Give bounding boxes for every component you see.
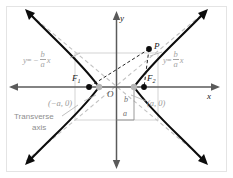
asymptote-left-denominator: a	[40, 60, 46, 69]
asymptote-right-equals: =	[167, 55, 172, 65]
asymptote-right-denominator: a	[173, 60, 179, 69]
focus-left-subscript: 1	[78, 78, 81, 84]
y-axis-label: y	[120, 14, 124, 23]
asymptote-right-equation: y=bax	[163, 50, 184, 68]
vertex-right-label: (a, 0)	[147, 99, 165, 108]
focus-left-dot	[86, 84, 92, 90]
point-p-dot	[146, 46, 152, 52]
origin-label: O	[107, 90, 114, 99]
focus-right-dot	[141, 84, 147, 90]
asymptote-left-variable: x	[47, 55, 51, 65]
asymptote-left-equation: y= −bax	[23, 50, 51, 68]
focus-right-label: F2	[147, 74, 156, 84]
asymptote-left-equals: = −	[27, 55, 39, 65]
semi-major-label: a	[123, 110, 127, 118]
asymptote-left-fraction: ba	[40, 50, 46, 68]
vertex-left-label: (−a, 0)	[48, 99, 72, 108]
vertex-right-dot	[131, 84, 137, 90]
focus-left-label: F1	[72, 74, 81, 84]
asymptote-right-variable: x	[180, 55, 184, 65]
semi-minor-label: b	[124, 96, 128, 104]
hyperbola-figure: y x O y= −bax y=bax F1 F2 P (−a, 0) (a, …	[0, 0, 233, 178]
transverse-axis-label-line1: Transverse	[14, 113, 54, 121]
asymptote-right-fraction: ba	[173, 50, 179, 68]
point-p-label: P	[154, 42, 160, 51]
vertex-left-dot	[96, 84, 102, 90]
x-axis-label: x	[207, 92, 211, 101]
transverse-axis-label-line2: axis	[32, 124, 46, 132]
hyperbola-graphic	[0, 0, 233, 178]
focus-right-subscript: 2	[153, 78, 156, 84]
